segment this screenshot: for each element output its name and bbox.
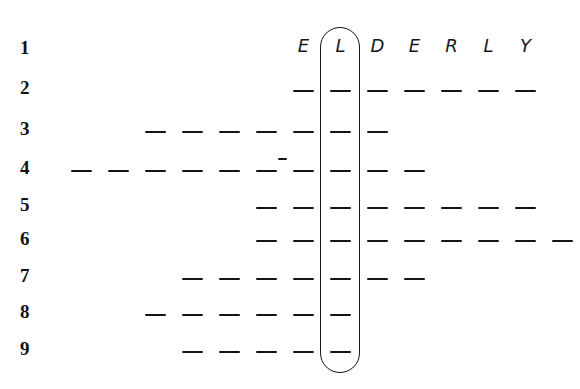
blank-row-9-slot-5[interactable] [330, 351, 351, 353]
blank-row-6-slot-6[interactable] [441, 240, 462, 242]
blank-row-5-slot-1[interactable] [256, 207, 277, 209]
blank-row-8-slot-6[interactable] [330, 314, 351, 316]
tick-mark-row-4-1 [278, 158, 287, 160]
blank-row-6-slot-1[interactable] [256, 240, 277, 242]
row-number-8: 8 [20, 302, 30, 321]
blank-row-2-slot-5[interactable] [441, 90, 462, 92]
row-number-2: 2 [20, 78, 30, 97]
row-number-7: 7 [20, 266, 30, 285]
row-number-1: 1 [20, 38, 30, 57]
blank-row-3-slot-1[interactable] [145, 131, 166, 133]
blank-row-8-slot-4[interactable] [256, 314, 277, 316]
blank-row-7-slot-3[interactable] [256, 278, 277, 280]
keyword-letter-7: Y [515, 37, 536, 55]
blank-row-4-slot-7[interactable] [293, 170, 314, 172]
blank-row-2-slot-7[interactable] [515, 90, 536, 92]
blank-row-8-slot-2[interactable] [182, 314, 203, 316]
keyword-letter-6: L [478, 37, 499, 55]
row-number-5: 5 [20, 195, 30, 214]
blank-row-4-slot-9[interactable] [367, 170, 388, 172]
blank-row-8-slot-5[interactable] [293, 314, 314, 316]
blank-row-9-slot-4[interactable] [293, 351, 314, 353]
blank-row-9-slot-3[interactable] [256, 351, 277, 353]
keyword-letter-5: R [441, 37, 462, 55]
blank-row-5-slot-3[interactable] [330, 207, 351, 209]
blank-row-5-slot-2[interactable] [293, 207, 314, 209]
keyword-letter-3: D [367, 37, 388, 55]
blank-row-6-slot-7[interactable] [478, 240, 499, 242]
blank-row-6-slot-4[interactable] [367, 240, 388, 242]
blank-row-5-slot-7[interactable] [478, 207, 499, 209]
blank-row-5-slot-6[interactable] [441, 207, 462, 209]
highlight-capsule-icon [320, 27, 360, 373]
row-number-9: 9 [20, 339, 30, 358]
row-number-6: 6 [20, 229, 30, 248]
blank-row-6-slot-2[interactable] [293, 240, 314, 242]
blank-row-2-slot-4[interactable] [404, 90, 425, 92]
blank-row-4-slot-10[interactable] [404, 170, 425, 172]
blank-row-6-slot-3[interactable] [330, 240, 351, 242]
blank-row-4-slot-2[interactable] [108, 170, 129, 172]
blank-row-6-slot-8[interactable] [515, 240, 536, 242]
blank-row-8-slot-1[interactable] [145, 314, 166, 316]
keyword-letter-4: E [404, 37, 425, 55]
blank-row-7-slot-7[interactable] [404, 278, 425, 280]
puzzle-canvas: 1 2 3 4 5 6 7 8 9 E L D E R L Y [0, 0, 580, 389]
blank-row-3-slot-6[interactable] [330, 131, 351, 133]
blank-row-9-slot-2[interactable] [219, 351, 240, 353]
blank-row-4-slot-4[interactable] [182, 170, 203, 172]
blank-row-6-slot-5[interactable] [404, 240, 425, 242]
blank-row-5-slot-4[interactable] [367, 207, 388, 209]
blank-row-7-slot-1[interactable] [182, 278, 203, 280]
blank-row-4-slot-5[interactable] [219, 170, 240, 172]
blank-row-3-slot-5[interactable] [293, 131, 314, 133]
blank-row-3-slot-2[interactable] [182, 131, 203, 133]
blank-row-3-slot-3[interactable] [219, 131, 240, 133]
blank-row-7-slot-6[interactable] [367, 278, 388, 280]
keyword-letter-1: E [293, 37, 314, 55]
blank-row-7-slot-2[interactable] [219, 278, 240, 280]
blank-row-9-slot-1[interactable] [182, 351, 203, 353]
blank-row-2-slot-2[interactable] [330, 90, 351, 92]
row-number-4: 4 [20, 158, 30, 177]
blank-row-7-slot-4[interactable] [293, 278, 314, 280]
blank-row-4-slot-3[interactable] [145, 170, 166, 172]
row-number-3: 3 [20, 119, 30, 138]
blank-row-3-slot-4[interactable] [256, 131, 277, 133]
blank-row-2-slot-3[interactable] [367, 90, 388, 92]
blank-row-5-slot-8[interactable] [515, 207, 536, 209]
blank-row-2-slot-1[interactable] [293, 90, 314, 92]
blank-row-6-slot-9[interactable] [552, 240, 573, 242]
blank-row-7-slot-5[interactable] [330, 278, 351, 280]
blank-row-5-slot-5[interactable] [404, 207, 425, 209]
blank-row-3-slot-7[interactable] [367, 131, 388, 133]
blank-row-4-slot-1[interactable] [71, 170, 92, 172]
blank-row-4-slot-6[interactable] [256, 170, 277, 172]
blank-row-4-slot-8[interactable] [330, 170, 351, 172]
blank-row-2-slot-6[interactable] [478, 90, 499, 92]
blank-row-8-slot-3[interactable] [219, 314, 240, 316]
